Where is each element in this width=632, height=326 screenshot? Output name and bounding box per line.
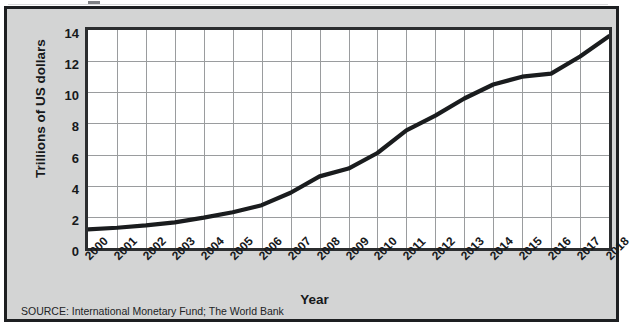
y-axis-title: Trillions of US dollars bbox=[33, 14, 48, 204]
series-line-gdp bbox=[88, 30, 609, 248]
chart-panel: Trillions of US dollars 02468101214 2000… bbox=[4, 6, 619, 322]
source-note: SOURCE: International Monetary Fund; The… bbox=[21, 305, 284, 317]
y-axis-tick-labels: 02468101214 bbox=[47, 30, 79, 248]
y-axis-tick-label: 12 bbox=[51, 58, 79, 71]
y-axis-tick-label: 0 bbox=[51, 245, 79, 258]
plot-frame bbox=[85, 27, 612, 251]
y-axis-tick-label: 6 bbox=[51, 151, 79, 164]
y-axis-tick-label: 10 bbox=[51, 89, 79, 102]
x-axis-tick-labels: 2000200120022003200420052006200720082009… bbox=[85, 253, 612, 295]
y-axis-tick-label: 8 bbox=[51, 120, 79, 133]
plot-area bbox=[88, 30, 609, 248]
cropped-title-rule bbox=[8, 4, 608, 5]
y-axis-tick-label: 4 bbox=[51, 182, 79, 195]
y-axis-tick-label: 2 bbox=[51, 213, 79, 226]
y-axis-tick-label: 14 bbox=[51, 27, 79, 40]
